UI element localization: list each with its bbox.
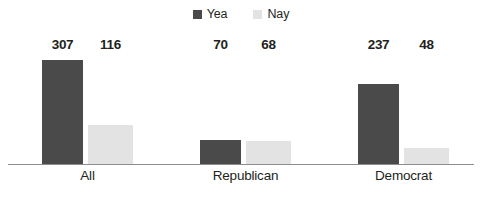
bar-republican-yea — [200, 140, 241, 164]
bar-democrat-yea — [358, 84, 399, 164]
bar-group-all: 307 116 — [42, 54, 133, 164]
category-label-all: All — [42, 168, 133, 184]
bar-wrap-republican-yea: 70 — [200, 54, 241, 164]
bar-wrap-all-yea: 307 — [42, 54, 83, 164]
bar-democrat-nay — [404, 148, 449, 164]
bar-value-all-yea: 307 — [52, 38, 74, 52]
bar-republican-nay — [246, 141, 291, 164]
bar-all-yea — [42, 60, 83, 164]
bar-value-republican-nay: 68 — [261, 38, 275, 52]
bar-wrap-democrat-nay: 48 — [404, 54, 449, 164]
bar-all-nay — [88, 125, 133, 164]
bar-wrap-republican-nay: 68 — [246, 54, 291, 164]
category-label-republican: Republican — [200, 168, 291, 184]
x-axis-line — [8, 164, 474, 165]
bar-group-democrat: 237 48 — [358, 54, 449, 164]
bar-group-republican: 70 68 — [200, 54, 291, 164]
category-label-democrat: Democrat — [358, 168, 449, 184]
bar-value-democrat-nay: 48 — [419, 38, 433, 52]
bar-value-democrat-yea: 237 — [368, 38, 390, 52]
bar-value-republican-yea: 70 — [213, 38, 227, 52]
plot-area: 307 116 All 70 68 Republican 237 — [0, 0, 482, 197]
bar-wrap-all-nay: 116 — [88, 54, 133, 164]
bar-wrap-democrat-yea: 237 — [358, 54, 399, 164]
bar-chart: Yea Nay 307 116 All 70 — [0, 0, 482, 197]
bar-value-all-nay: 116 — [100, 38, 121, 52]
